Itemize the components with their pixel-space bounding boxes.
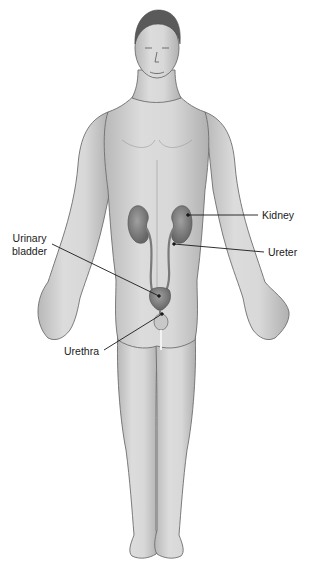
- ureter-label: Ureter: [268, 246, 297, 259]
- kidney-label: Kidney: [262, 209, 294, 222]
- left-arm: [205, 112, 289, 340]
- urethra-label: Urethra: [64, 345, 99, 358]
- left-leg: [155, 330, 196, 558]
- right-arm: [38, 112, 110, 340]
- genital-outline: [154, 314, 168, 330]
- urinary-system-diagram: [0, 0, 313, 574]
- right-leg: [117, 330, 158, 558]
- urinary-bladder-label: Urinary bladder: [12, 232, 47, 258]
- urinary-bladder-label-line1: Urinary: [12, 232, 47, 245]
- urinary-bladder-label-line2: bladder: [12, 245, 47, 258]
